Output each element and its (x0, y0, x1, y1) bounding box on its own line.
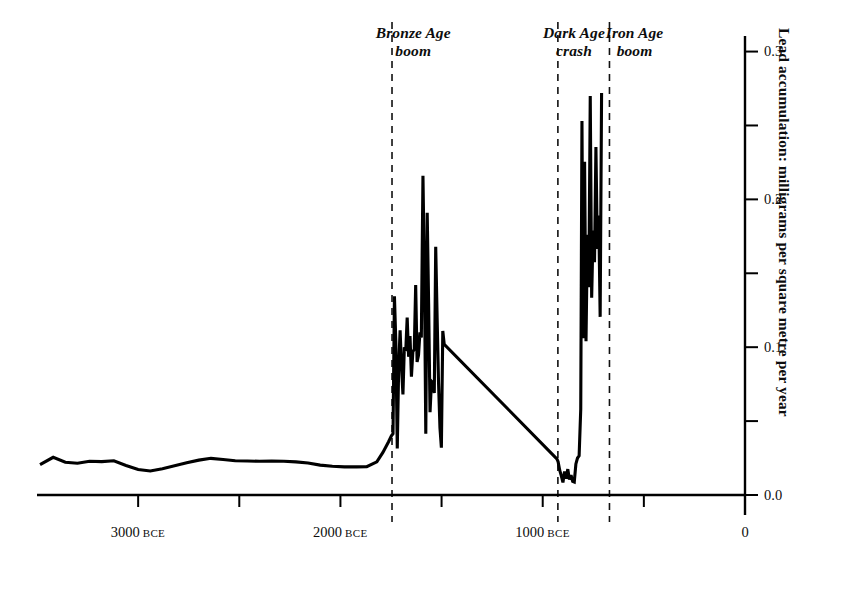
x-tick-value: 0 (742, 524, 749, 540)
x-tick-value: 1000 (515, 524, 544, 540)
x-tick-label--1000: 1000BCE (515, 524, 570, 541)
data-line-0 (40, 93, 602, 482)
x-tick-era-suffix: BCE (342, 527, 368, 539)
x-tick-era-suffix: BCE (140, 527, 166, 539)
x-tick-label--3000: 3000BCE (111, 524, 166, 541)
y-tick-label-0.2: 0.2 (764, 191, 782, 208)
x-tick-era-suffix: BCE (544, 527, 570, 539)
y-tick-label-0.1: 0.1 (764, 339, 782, 356)
data-line-group (40, 93, 602, 482)
x-tick-label--2000: 2000BCE (313, 524, 368, 541)
lead-accumulation-chart: Bronze Age boom Dark Age crash Iron Age … (0, 0, 856, 596)
x-tick-label-0: 0 (742, 524, 749, 541)
x-tick-value: 3000 (111, 524, 140, 540)
x-tick-value: 2000 (313, 524, 342, 540)
y-tick-label-0.3: 0.3 (764, 43, 782, 60)
y-axis-title: Lead accumulation: milligrams per square… (767, 28, 793, 498)
chart-plot-area (0, 0, 856, 596)
y-tick-label-0.0: 0.0 (764, 487, 782, 504)
